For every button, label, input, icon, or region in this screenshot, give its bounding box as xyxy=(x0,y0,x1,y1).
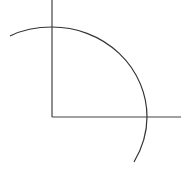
diagram-canvas xyxy=(0,0,183,172)
circular-arc xyxy=(10,27,147,162)
